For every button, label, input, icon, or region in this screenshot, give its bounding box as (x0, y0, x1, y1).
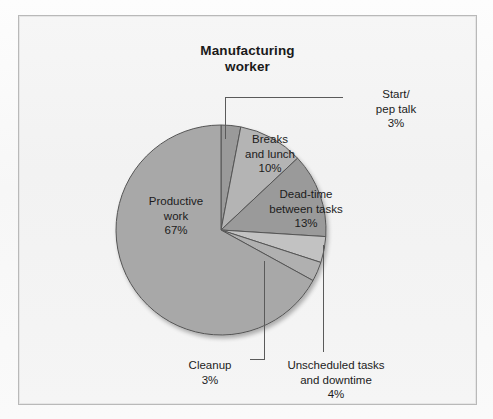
label-dead-time-value: 13% (248, 216, 364, 231)
label-unscheduled-tasks-and-downtime: Unscheduled tasks and downtime 4% (265, 358, 407, 402)
label-unscheduled-line-2: and downtime (265, 373, 407, 388)
label-breaks-and-lunch-value: 10% (222, 161, 318, 176)
label-unscheduled-value: 4% (265, 387, 407, 402)
label-dead-time-between-tasks: Dead-time between tasks 13% (248, 187, 364, 231)
label-dead-time-line-2: between tasks (248, 202, 364, 217)
label-start-pep-talk-line-2: pep talk (348, 102, 444, 117)
label-productive-work-line-2: work (124, 209, 228, 224)
figure-frame: Manufacturing worker (18, 15, 477, 405)
label-breaks-and-lunch-line-1: Breaks (222, 132, 318, 147)
label-start-pep-talk-value: 3% (348, 116, 444, 131)
label-cleanup-value: 3% (168, 373, 252, 388)
label-cleanup: Cleanup 3% (168, 358, 252, 387)
label-cleanup-line-1: Cleanup (168, 358, 252, 373)
label-dead-time-line-1: Dead-time (248, 187, 364, 202)
label-start-pep-talk: Start/ pep talk 3% (348, 87, 444, 131)
label-productive-work-value: 67% (124, 223, 228, 238)
figure-page: Manufacturing worker (0, 0, 493, 419)
label-unscheduled-line-1: Unscheduled tasks (265, 358, 407, 373)
label-breaks-and-lunch: Breaks and lunch 10% (222, 132, 318, 176)
label-productive-work: Productive work 67% (124, 194, 228, 238)
label-start-pep-talk-line-1: Start/ (348, 87, 444, 102)
label-breaks-and-lunch-line-2: and lunch (222, 147, 318, 162)
label-productive-work-line-1: Productive (124, 194, 228, 209)
